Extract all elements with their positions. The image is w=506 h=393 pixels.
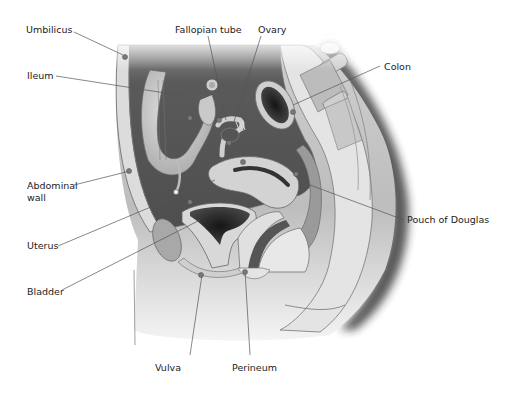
- dot-pouch: [294, 172, 299, 177]
- anatomy-illustration: [0, 0, 506, 393]
- label-colon: Colon: [384, 61, 411, 73]
- dot-umbilicus: [123, 55, 128, 60]
- dot-perineum: [243, 270, 248, 275]
- label-uterus: Uterus: [27, 240, 58, 252]
- anatomy-diagram: Umbilicus Fallopian tube Ovary Colon Ile…: [0, 0, 506, 393]
- dot-abdominal: [127, 169, 132, 174]
- label-pouch-of-douglas: Pouch of Douglas: [407, 214, 489, 226]
- dot-ileum: [188, 116, 193, 121]
- label-vulva: Vulva: [155, 362, 181, 374]
- dot-fallopian: [217, 118, 222, 123]
- dot-colon: [291, 110, 296, 115]
- thigh-line: [134, 270, 135, 345]
- label-perineum: Perineum: [232, 362, 277, 374]
- dot-bladder: [188, 200, 193, 205]
- label-umbilicus: Umbilicus: [26, 24, 72, 36]
- leader-abdominal: [74, 171, 130, 185]
- label-abdominal-wall-line2: wall: [27, 192, 46, 204]
- label-ovary: Ovary: [258, 24, 286, 36]
- label-bladder: Bladder: [27, 286, 64, 298]
- dot-uterus: [241, 160, 246, 165]
- dot-ovary: [227, 141, 232, 146]
- label-fallopian-tube: Fallopian tube: [175, 24, 242, 36]
- top-fade: [110, 35, 390, 70]
- label-ileum: Ileum: [27, 70, 54, 82]
- label-abdominal-wall-line1: Abdominal: [27, 180, 78, 192]
- dot-vulva: [199, 273, 204, 278]
